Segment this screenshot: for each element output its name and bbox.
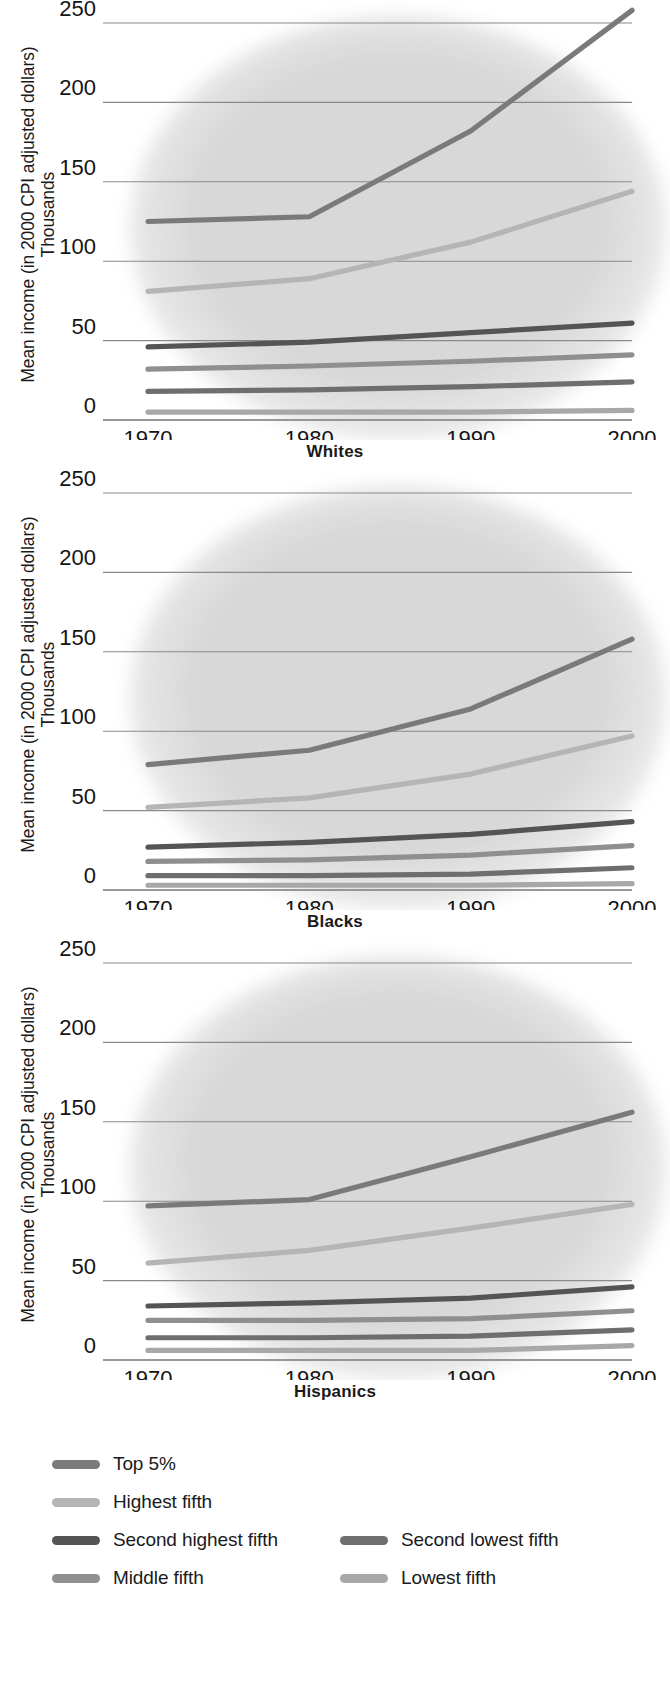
x-tick-label: 1990 xyxy=(446,1366,495,1380)
panel-title-whites: Whites xyxy=(0,442,670,462)
panel-title-hispanics: Hispanics xyxy=(0,1382,670,1402)
legend-item-highest-fifth: Highest fifth xyxy=(52,1484,212,1520)
x-tick-label: 1980 xyxy=(285,896,334,910)
plot-area-hispanics: 0501001502002501970198019902000 xyxy=(0,940,670,1380)
legend-label-top-5-percent: Top 5% xyxy=(113,1453,176,1475)
legend-swatch-top-5-percent xyxy=(52,1460,100,1469)
y-axis-title-hispanics: Mean income (in 2000 CPI adjusted dollar… xyxy=(0,940,76,1370)
legend-item-lowest-fifth: Lowest fifth xyxy=(340,1560,496,1596)
x-tick-label: 2000 xyxy=(608,426,657,440)
legend-label-middle-fifth: Middle fifth xyxy=(113,1567,204,1589)
y-axis-title-line2: Thousands xyxy=(38,47,58,383)
legend-item-middle-fifth: Middle fifth xyxy=(52,1560,204,1596)
y-axis-title-line1: Mean income (in 2000 CPI adjusted dollar… xyxy=(17,517,37,853)
legend-swatch-middle-fifth xyxy=(52,1574,100,1583)
legend-item-top-5-percent: Top 5% xyxy=(52,1446,176,1482)
plot-area-whites: 0501001502002501970198019902000 xyxy=(0,0,670,440)
x-tick-label: 1980 xyxy=(285,1366,334,1380)
legend-item-second-lowest-fifth: Second lowest fifth xyxy=(340,1522,559,1558)
y-tick-label: 0 xyxy=(84,1333,96,1358)
y-axis-title-blacks: Mean income (in 2000 CPI adjusted dollar… xyxy=(0,470,76,900)
chart-panel-hispanics: Mean income (in 2000 CPI adjusted dollar… xyxy=(0,940,670,1410)
y-tick-label: 0 xyxy=(84,393,96,418)
plot-background-wash xyxy=(130,16,666,440)
panel-title-blacks: Blacks xyxy=(0,912,670,932)
x-tick-label: 2000 xyxy=(608,1366,657,1380)
legend-label-second-highest-fifth: Second highest fifth xyxy=(113,1529,278,1551)
x-tick-label: 1980 xyxy=(285,426,334,440)
chart-panel-whites: Mean income (in 2000 CPI adjusted dollar… xyxy=(0,0,670,470)
x-tick-label: 1970 xyxy=(124,426,173,440)
plot-background-wash xyxy=(130,956,666,1380)
y-axis-title-whites: Mean income (in 2000 CPI adjusted dollar… xyxy=(0,0,76,430)
x-tick-label: 1990 xyxy=(446,896,495,910)
legend-item-second-highest-fifth: Second highest fifth xyxy=(52,1522,278,1558)
series-line xyxy=(148,884,632,886)
legend-label-second-lowest-fifth: Second lowest fifth xyxy=(401,1529,559,1551)
legend-swatch-second-lowest-fifth xyxy=(340,1536,388,1545)
x-tick-label: 1970 xyxy=(124,1366,173,1380)
y-axis-title-line1: Mean income (in 2000 CPI adjusted dollar… xyxy=(17,47,37,383)
y-axis-title-line2: Thousands xyxy=(38,517,58,853)
legend-swatch-highest-fifth xyxy=(52,1498,100,1507)
chart-legend: Top 5% Highest fifth Second highest fift… xyxy=(0,1438,670,1668)
x-tick-label: 1990 xyxy=(446,426,495,440)
legend-swatch-lowest-fifth xyxy=(340,1574,388,1583)
y-axis-title-line1: Mean income (in 2000 CPI adjusted dollar… xyxy=(17,987,37,1323)
legend-label-lowest-fifth: Lowest fifth xyxy=(401,1567,496,1589)
legend-label-highest-fifth: Highest fifth xyxy=(113,1491,212,1513)
x-tick-label: 2000 xyxy=(608,896,657,910)
legend-swatch-second-highest-fifth xyxy=(52,1536,100,1545)
x-tick-label: 1970 xyxy=(124,896,173,910)
plot-area-blacks: 0501001502002501970198019902000 xyxy=(0,470,670,910)
y-tick-label: 0 xyxy=(84,863,96,888)
y-axis-title-line2: Thousands xyxy=(38,987,58,1323)
chart-panel-blacks: Mean income (in 2000 CPI adjusted dollar… xyxy=(0,470,670,940)
series-line xyxy=(148,410,632,412)
